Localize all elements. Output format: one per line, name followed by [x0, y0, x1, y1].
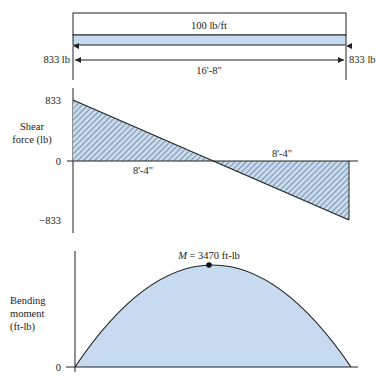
shear-right-segment-label: 8'-4": [272, 148, 292, 159]
shear-axis-label-2: force (lb): [12, 134, 52, 146]
moment-axis-label-1: Bending: [10, 295, 46, 306]
shear-diagram: 833 0 −833 Shear force (lb) 8'-4" 8'-4": [12, 88, 358, 233]
beam-diagram: 100 lb/ft 833 lb 833 lb 16'-8" 833 0 −83…: [0, 0, 388, 389]
moment-diagram: M = 3470 ft-lb 0 Bending moment (ft-lb): [10, 250, 358, 373]
moment-axis-label-3: (ft-lb): [10, 321, 36, 333]
moment-tick-zero: 0: [56, 362, 61, 373]
right-reaction-label: 833 lb: [349, 54, 376, 65]
shear-tick-top: 833: [45, 95, 61, 106]
span-label: 16'-8": [196, 65, 221, 76]
shear-left-segment-label: 8'-4": [133, 165, 153, 176]
moment-max-label: M = 3470 ft-lb: [177, 250, 240, 261]
moment-axis-label-2: moment: [10, 308, 44, 319]
beam-section: 100 lb/ft 833 lb 833 lb 16'-8": [43, 13, 375, 80]
left-reaction-label: 833 lb: [43, 54, 70, 65]
beam-body: [73, 35, 346, 45]
load-label: 100 lb/ft: [191, 20, 227, 31]
shear-tick-bottom: −833: [39, 215, 61, 226]
shear-axis-label-1: Shear: [20, 121, 44, 132]
shear-tick-zero: 0: [56, 156, 61, 167]
moment-max-point: [206, 262, 212, 268]
moment-max-value: = 3470 ft-lb: [187, 250, 240, 261]
